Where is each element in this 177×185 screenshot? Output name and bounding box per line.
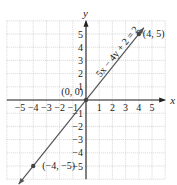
- coordinate-plane: xy−5−4−3−2−112345−5−4−3−2−1123455x − 4y …: [0, 0, 177, 185]
- y-tick-label: −1: [72, 108, 83, 119]
- data-point: [31, 164, 35, 168]
- point-label: (−4, −5): [42, 160, 75, 172]
- x-tick-label: −4: [28, 102, 39, 113]
- x-tick-label: 2: [110, 102, 115, 113]
- y-tick-label: −2: [72, 121, 83, 132]
- point-label: (4, 5): [143, 28, 165, 40]
- data-point: [137, 32, 141, 36]
- x-tick-label: −3: [41, 102, 52, 113]
- point-label: (0, 0): [61, 86, 83, 98]
- y-axis-label: y: [82, 7, 88, 19]
- y-tick-label: 5: [78, 29, 83, 40]
- y-tick-label: 2: [78, 68, 83, 79]
- x-axis-label: x: [169, 94, 175, 106]
- equation-label: 5x − 4y + 2 = 2: [93, 24, 140, 79]
- x-tick-label: 5: [150, 102, 155, 113]
- y-tick-label: 4: [78, 42, 83, 53]
- y-tick-label: −4: [72, 147, 83, 158]
- y-tick-label: 3: [78, 55, 83, 66]
- y-tick-label: −3: [72, 134, 83, 145]
- x-tick-label: 1: [97, 102, 102, 113]
- x-tick-label: 3: [123, 102, 128, 113]
- data-point: [84, 98, 88, 102]
- x-tick-label: −2: [54, 102, 65, 113]
- x-tick-label: 4: [136, 102, 141, 113]
- x-tick-label: −5: [15, 102, 26, 113]
